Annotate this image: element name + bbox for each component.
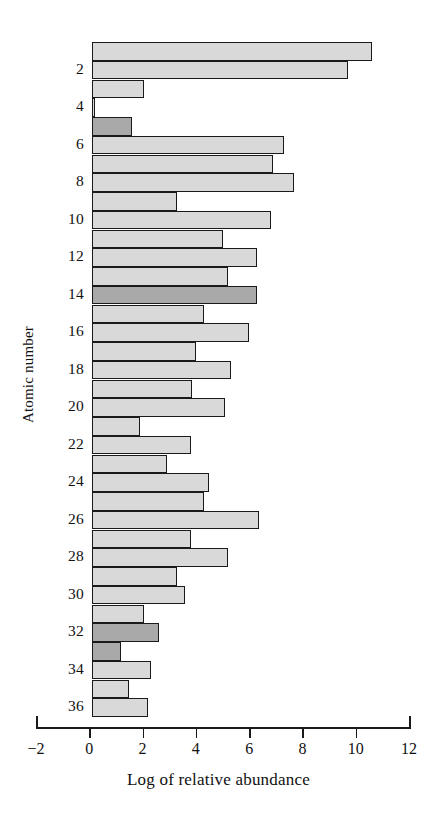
bar-row <box>92 398 410 417</box>
x-tick-6 <box>249 727 251 738</box>
y-axis-tick-labels: 24681012141618202224262830323436 <box>38 42 84 717</box>
y-tick-label-10: 10 <box>40 210 84 229</box>
bar-row <box>92 286 410 305</box>
bar-row <box>92 342 410 361</box>
bar-row <box>92 455 410 474</box>
bar-row <box>92 567 410 586</box>
x-tick-label-10: 10 <box>336 740 376 758</box>
y-tick-label-32: 32 <box>40 622 84 641</box>
x-tick-label-2: 2 <box>123 740 163 758</box>
y-tick-label-24: 24 <box>40 472 84 491</box>
x-tick-2 <box>143 727 145 738</box>
bar-element-z17 <box>92 342 196 361</box>
y-tick-label-14: 14 <box>40 285 84 304</box>
bar-row <box>92 230 410 249</box>
y-tick-label-4: 4 <box>40 97 84 116</box>
abundance-bar-chart: Atomic number 24681012141618202224262830… <box>0 0 437 817</box>
bar-element-z4 <box>92 98 95 117</box>
bar-element-z25 <box>92 492 204 511</box>
bar-row <box>92 211 410 230</box>
y-tick-label-36: 36 <box>40 697 84 716</box>
bar-element-z32 <box>92 623 159 642</box>
bar-element-z22 <box>92 436 191 455</box>
bar-element-z23 <box>92 455 167 474</box>
bar-row <box>92 380 410 399</box>
bar-row <box>92 323 410 342</box>
bar-element-z2 <box>92 61 348 80</box>
bar-element-z34 <box>92 661 151 680</box>
bar-element-z29 <box>92 567 177 586</box>
bar-element-z21 <box>92 417 140 436</box>
bar-element-z3 <box>92 80 144 99</box>
bar-element-z35 <box>92 680 129 699</box>
x-tick-0 <box>89 727 91 738</box>
y-tick-label-16: 16 <box>40 322 84 341</box>
bar-row <box>92 248 410 267</box>
bar-element-z6 <box>92 136 284 155</box>
bar-row <box>92 117 410 136</box>
x-tick-label-12: 12 <box>389 740 429 758</box>
bar-element-z31 <box>92 605 144 624</box>
bar-row <box>92 548 410 567</box>
bar-row <box>92 492 410 511</box>
bar-element-z24 <box>92 473 209 492</box>
bar-row <box>92 361 410 380</box>
bar-row <box>92 417 410 436</box>
bar-element-z11 <box>92 230 223 249</box>
bar-element-z14 <box>92 286 257 305</box>
bar-element-z10 <box>92 211 271 230</box>
bar-element-z7 <box>92 155 273 174</box>
bar-row <box>92 661 410 680</box>
y-tick-label-34: 34 <box>40 660 84 679</box>
bar-row <box>92 586 410 605</box>
bar-element-z9 <box>92 192 177 211</box>
bar-row <box>92 173 410 192</box>
x-tick-label-4: 4 <box>176 740 216 758</box>
bar-row <box>92 436 410 455</box>
x-tick--2 <box>36 716 38 729</box>
y-tick-label-12: 12 <box>40 247 84 266</box>
bar-element-z33 <box>92 642 121 661</box>
x-axis-line <box>36 727 409 729</box>
bar-element-z18 <box>92 361 231 380</box>
x-tick-label-8: 8 <box>282 740 322 758</box>
x-tick-label-6: 6 <box>229 740 269 758</box>
x-tick-12 <box>409 716 411 729</box>
bar-row <box>92 42 410 61</box>
x-tick-4 <box>196 727 198 738</box>
bar-element-z1 <box>92 42 372 61</box>
bar-row <box>92 605 410 624</box>
x-tick-label-0: 0 <box>69 740 109 758</box>
bar-row <box>92 642 410 661</box>
x-axis-title: Log of relative abundance <box>0 770 437 790</box>
bar-row <box>92 80 410 99</box>
bar-element-z19 <box>92 380 192 399</box>
y-tick-label-2: 2 <box>40 60 84 79</box>
bar-element-z20 <box>92 398 225 417</box>
y-tick-label-8: 8 <box>40 172 84 191</box>
bar-element-z30 <box>92 586 185 605</box>
bar-row <box>92 511 410 530</box>
bar-row <box>92 623 410 642</box>
bar-row <box>92 155 410 174</box>
bar-element-z12 <box>92 248 257 267</box>
y-tick-label-30: 30 <box>40 585 84 604</box>
y-tick-label-20: 20 <box>40 397 84 416</box>
bar-element-z16 <box>92 323 249 342</box>
bar-element-z5 <box>92 117 132 136</box>
bar-row <box>92 136 410 155</box>
bar-row <box>92 698 410 717</box>
bar-element-z27 <box>92 530 191 549</box>
bar-row <box>92 98 410 117</box>
bar-row <box>92 680 410 699</box>
bar-row <box>92 530 410 549</box>
bar-row <box>92 61 410 80</box>
y-axis-title: Atomic number <box>20 295 37 455</box>
bar-element-z13 <box>92 267 228 286</box>
y-tick-label-22: 22 <box>40 435 84 454</box>
bar-element-z8 <box>92 173 294 192</box>
bar-element-z28 <box>92 548 228 567</box>
bar-row <box>92 473 410 492</box>
y-tick-label-18: 18 <box>40 360 84 379</box>
plot-area <box>92 42 410 717</box>
